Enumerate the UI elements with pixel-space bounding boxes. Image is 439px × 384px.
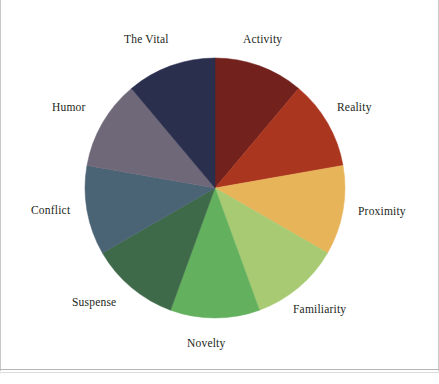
pie-label-the-vital: The Vital <box>124 34 169 46</box>
pie-label-suspense: Suspense <box>72 297 116 309</box>
pie-chart-svg <box>0 0 439 369</box>
page-canvas: The Vital Activity Reality Proximity Fam… <box>0 0 439 384</box>
pie-label-familiarity: Familiarity <box>293 304 346 316</box>
pie-label-novelty: Novelty <box>187 338 225 350</box>
pie-label-reality: Reality <box>337 102 372 114</box>
pie-label-proximity: Proximity <box>358 206 406 218</box>
pie-chart-figure: The Vital Activity Reality Proximity Fam… <box>0 0 439 369</box>
pie-label-activity: Activity <box>243 34 282 46</box>
page-footer-rule-secondary <box>0 372 439 373</box>
pie-label-humor: Humor <box>52 102 86 114</box>
pie-slice-group <box>85 58 345 318</box>
page-footer-rule <box>0 369 439 370</box>
pie-label-conflict: Conflict <box>31 205 70 217</box>
